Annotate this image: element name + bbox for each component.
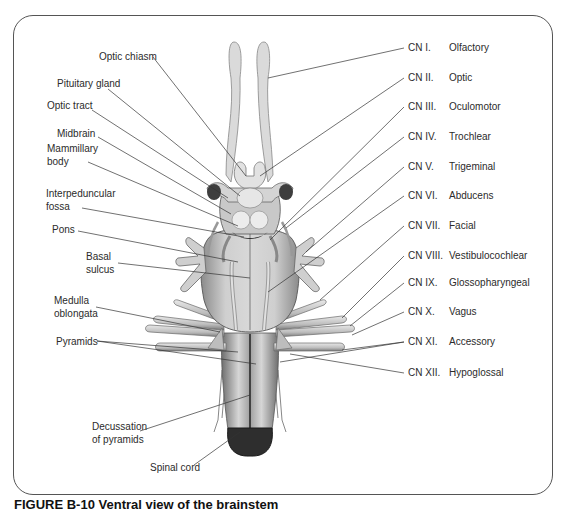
label-line: Medulla [54, 294, 98, 307]
label-pons: Pons [52, 223, 75, 236]
label-optic-tract: Optic tract [47, 99, 93, 112]
label-basal-sulcus: Basal sulcus [86, 250, 114, 276]
cn-12-name: Hypoglossal [449, 367, 503, 379]
cn-9-name: Glossopharyngeal [449, 277, 530, 289]
cn-2-number: CN II. [408, 72, 434, 84]
label-line: Interpeduncular [46, 187, 116, 200]
cn-5-name: Trigeminal [449, 161, 495, 173]
label-line: oblongata [54, 307, 98, 320]
cn-8-name: Vestibulocochlear [449, 250, 527, 262]
cn-2-name: Optic [449, 72, 472, 84]
cn-4-name: Trochlear [449, 131, 491, 143]
label-line: fossa [46, 200, 116, 213]
label-spinal-cord: Spinal cord [150, 461, 200, 474]
label-line: Basal [86, 250, 114, 263]
label-pituitary-gland: Pituitary gland [57, 77, 120, 90]
label-optic-chiasm: Optic chiasm [99, 50, 157, 63]
cn-4-number: CN IV. [408, 131, 437, 143]
cn-1-number: CN I. [408, 42, 431, 54]
figure-caption: FIGURE B-10 Ventral view of the brainste… [14, 498, 278, 512]
label-medulla-oblongata: Medulla oblongata [54, 294, 98, 320]
cn-7-number: CN VII. [408, 220, 440, 232]
cn-10-name: Vagus [449, 306, 477, 318]
label-interpeduncular-fossa: Interpeduncular fossa [46, 187, 116, 213]
cn-5-number: CN V. [408, 161, 434, 173]
label-line: body [47, 155, 98, 168]
olfactory-tracts [226, 42, 273, 182]
label-line: of pyramids [92, 433, 147, 446]
cn-1-name: Olfactory [449, 42, 489, 54]
label-mammillary-body: Mammillary body [47, 142, 98, 168]
label-line: Mammillary [47, 142, 98, 155]
cn-10-number: CN X. [408, 306, 435, 318]
cn-7-name: Facial [449, 220, 476, 232]
label-line: sulcus [86, 263, 114, 276]
label-pyramids: Pyramids [56, 335, 98, 348]
cn-12-number: CN XII. [408, 367, 440, 379]
cn-11-number: CN XI. [408, 336, 437, 348]
cn-6-number: CN VI. [408, 190, 437, 202]
cn-6-name: Abducens [449, 190, 493, 202]
label-midbrain: Midbrain [57, 127, 95, 140]
cn-3-name: Oculomotor [449, 101, 501, 113]
label-line: Decussation [92, 420, 147, 433]
label-decussation-of-pyramids: Decussation of pyramids [92, 420, 147, 446]
cn-11-name: Accessory [449, 336, 495, 348]
cn-9-number: CN IX. [408, 277, 437, 289]
cn-8-number: CN VIII. [408, 250, 443, 262]
cn-3-number: CN III. [408, 101, 436, 113]
